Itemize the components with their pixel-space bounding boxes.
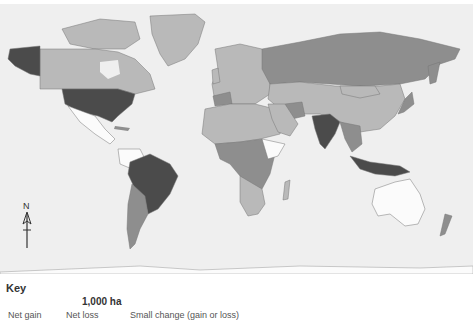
region-indonesia <box>350 156 410 176</box>
region-madagascar <box>283 180 290 200</box>
key-label-net-gain: Net gain <box>8 310 42 320</box>
region-canada-islands <box>62 19 140 49</box>
key-label-small-change: Small change (gain or loss) <box>130 310 239 320</box>
world-map <box>0 4 473 274</box>
region-antarctica <box>0 266 473 274</box>
region-new-zealand <box>440 214 452 236</box>
compass-label: N <box>23 201 30 211</box>
region-alaska <box>8 46 40 76</box>
region-greenland <box>150 14 205 66</box>
key-label-net-loss: Net loss <box>66 310 99 320</box>
world-map-svg <box>0 4 473 274</box>
north-arrow: N <box>20 200 34 254</box>
north-arrow-icon: N <box>20 200 34 250</box>
key-unit: 1,000 ha <box>82 296 121 307</box>
region-caribbean <box>114 126 130 131</box>
region-kamchatka <box>428 62 440 84</box>
region-se-asia <box>340 122 362 152</box>
region-india <box>312 114 340 149</box>
region-canada <box>40 49 155 94</box>
key-title: Key <box>6 282 26 294</box>
region-united-states <box>62 89 135 122</box>
region-australia <box>372 179 425 226</box>
